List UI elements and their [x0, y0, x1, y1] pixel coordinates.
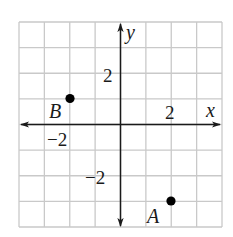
point-A-label: A — [145, 205, 160, 227]
x-tick-label-neg2: −2 — [47, 129, 67, 150]
x-tick-label-pos2: 2 — [165, 102, 175, 123]
y-axis-label: y — [124, 21, 135, 44]
y-tick-label-pos2: 2 — [103, 65, 113, 86]
point-B-label: B — [49, 100, 61, 122]
point-B-marker — [65, 94, 74, 103]
y-tick-label-neg2: −2 — [85, 167, 105, 188]
point-A-marker — [166, 196, 175, 205]
coordinate-plane: y x 2 −2 2 −2 B A — [0, 0, 233, 237]
x-axis-label: x — [205, 99, 215, 121]
